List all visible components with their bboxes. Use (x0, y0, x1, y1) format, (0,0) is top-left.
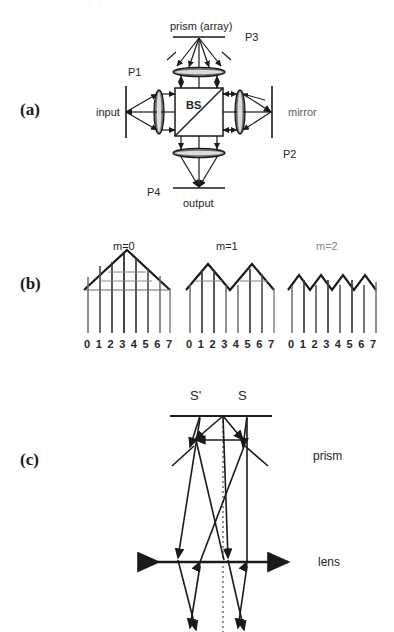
rays-prism-region (172, 416, 268, 466)
lens-label: lens (318, 555, 340, 569)
rays-below-lens (178, 560, 247, 630)
source-label-s: S (238, 388, 247, 403)
rays-prism-to-lens (178, 416, 247, 562)
source-label-s-prime: S' (190, 388, 201, 403)
prism-label: prism (313, 449, 342, 463)
figure-canvas: . . (a) (0, 0, 394, 632)
panel-c-graphics (0, 0, 394, 632)
